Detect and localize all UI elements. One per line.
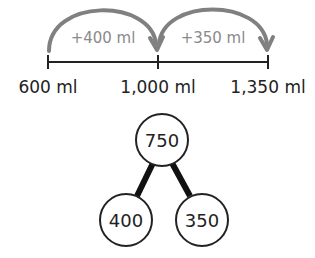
part-whole-model: 750 400 350 — [100, 114, 228, 246]
tick-label-1: 600 ml — [18, 77, 77, 97]
tick-label-3: 1,350 ml — [230, 77, 305, 97]
part-value-left: 400 — [109, 210, 143, 231]
connector-left — [137, 163, 153, 196]
jump-label-2: +350 ml — [181, 29, 246, 47]
jump-label-1: +400 ml — [71, 29, 136, 47]
tick-label-2: 1,000 ml — [120, 77, 195, 97]
diagram-canvas: +400 ml +350 ml 600 ml 1,000 ml 1,350 ml… — [0, 0, 315, 258]
number-line — [48, 55, 268, 69]
part-value-right: 350 — [185, 210, 219, 231]
whole-value: 750 — [145, 130, 179, 151]
connector-right — [172, 163, 190, 196]
